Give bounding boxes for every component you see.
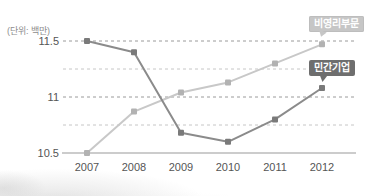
x-tick-label-2008: 2008 — [122, 161, 146, 173]
callout-private: 민간기업 — [309, 60, 355, 76]
y-tick-label-11: 11 — [48, 91, 59, 103]
data-point-0-2011 — [272, 60, 278, 66]
y-tick-label-10.5: 10.5 — [38, 147, 59, 159]
data-point-0-2007 — [84, 150, 90, 156]
x-tick-label-2011: 2011 — [263, 161, 287, 173]
data-point-1-2008 — [131, 49, 137, 55]
x-tick-label-2009: 2009 — [169, 161, 193, 173]
data-point-1-2012 — [319, 85, 325, 91]
callout-nonprofit: 비영리부문 — [309, 16, 364, 32]
data-point-0-2009 — [178, 90, 184, 96]
data-point-1-2007 — [84, 38, 90, 44]
series-line-1 — [87, 41, 322, 142]
chart-panel: (단위: 백만) 10.51111.5200720082009201020112… — [0, 0, 388, 196]
data-point-0-2010 — [225, 79, 231, 85]
callout-private-label: 민간기업 — [314, 62, 350, 73]
callout-nonprofit-label: 비영리부문 — [314, 18, 359, 29]
data-point-0-2008 — [131, 109, 137, 115]
data-point-1-2009 — [178, 130, 184, 136]
y-tick-label-11.5: 11.5 — [38, 35, 59, 47]
x-tick-label-2010: 2010 — [216, 161, 240, 173]
callout-private-tail-icon — [319, 74, 328, 82]
x-tick-label-2007: 2007 — [75, 161, 99, 173]
data-point-0-2012 — [319, 41, 325, 47]
x-tick-label-2012: 2012 — [310, 161, 334, 173]
data-point-1-2010 — [225, 139, 231, 145]
data-point-1-2011 — [272, 116, 278, 122]
